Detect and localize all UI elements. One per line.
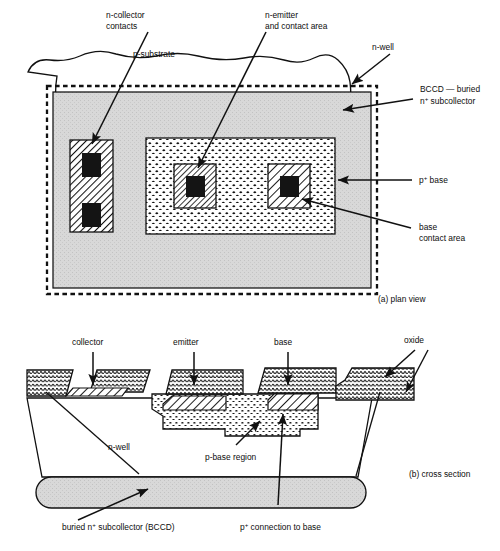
label-n-well-plan: n-well — [372, 42, 394, 52]
emitter-contact-strip — [163, 396, 226, 410]
base-contact-strip — [268, 394, 318, 410]
oxide-block-4 — [258, 368, 336, 393]
label-n-collector-contacts-line2: contacts — [106, 21, 137, 31]
cross-section-group: collector emitter base oxide n-well p-ba… — [27, 335, 471, 532]
collector-contact-strip — [66, 388, 128, 396]
label-collector: collector — [72, 337, 103, 347]
oxide-block-5 — [336, 368, 414, 400]
base-contact-window — [280, 176, 299, 197]
n-emitter-contact-window — [186, 176, 205, 197]
plan-view-group: n-collector contacts n-emitter and conta… — [28, 10, 480, 304]
label-emitter: emitter — [173, 337, 199, 347]
label-p-plus-connection: p+ connection to base — [240, 521, 321, 532]
semiconductor-figure: n-collector contacts n-emitter and conta… — [0, 0, 500, 551]
label-n-emitter-line1: n-emitter — [265, 10, 298, 20]
n-collector-contact-window-bottom — [82, 203, 101, 227]
label-p-base-region: p-base region — [205, 452, 257, 462]
label-p-substrate: p-substrate — [133, 49, 175, 59]
label-bccd-line1: BCCD — buried — [420, 84, 480, 94]
label-p-plus-base: p+ base — [419, 174, 448, 185]
caption-cross-section: (b) cross section — [409, 469, 471, 479]
label-bccd-line2: n+ subcollector — [420, 95, 476, 106]
n-collector-contact-window-top — [82, 153, 101, 177]
figure-root: n-collector contacts n-emitter and conta… — [0, 0, 500, 551]
label-base-contact-line1: base — [419, 222, 438, 232]
label-base: base — [274, 337, 293, 347]
bccd-buried-layer — [36, 477, 366, 508]
oxide-block-3 — [166, 370, 243, 394]
label-oxide: oxide — [404, 335, 424, 345]
caption-plan-view: (a) plan view — [378, 294, 426, 304]
oxide-block-1 — [27, 370, 73, 396]
label-n-well-cross: n-well — [108, 442, 130, 452]
label-base-contact-line2: contact area — [419, 233, 465, 243]
leader-n-well — [352, 54, 390, 84]
label-buried-subcollector: buried n+ subcollector (BCCD) — [62, 521, 175, 532]
label-n-collector-contacts-line1: n-collector — [106, 10, 145, 20]
label-n-emitter-line2: and contact area — [265, 21, 328, 31]
